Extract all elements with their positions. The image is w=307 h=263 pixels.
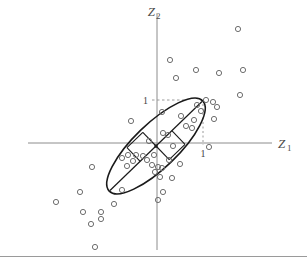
scatter-point (119, 155, 124, 160)
scatter-point (160, 130, 165, 135)
scatter-point (155, 197, 160, 202)
scatter-point (80, 209, 85, 214)
scatter-point (166, 157, 171, 162)
scatter-point (128, 118, 133, 123)
x-axis-tick-label-1: 1 (201, 148, 206, 159)
scatter-point (210, 99, 215, 104)
scatter-point (130, 158, 135, 163)
scatter-point (193, 67, 198, 72)
scatter-point (77, 189, 82, 194)
scatter-point (92, 244, 97, 249)
y-axis-label-sub: 2 (156, 11, 161, 21)
scatter-point (216, 70, 221, 75)
scatter-point (151, 152, 156, 157)
ellipse-right-angle-mark-lower-leg (172, 131, 185, 145)
scatter-point (169, 175, 174, 180)
scatter-point (125, 152, 130, 157)
scatter-point (167, 57, 172, 62)
scatter-point (98, 209, 103, 214)
scatter-point (157, 174, 162, 179)
scatter-point (211, 116, 216, 121)
x-axis-label: Z 1 (278, 136, 292, 153)
scatter-plot-figure: Z 2 Z 1 1 1 (0, 0, 307, 263)
scatter-points-group (53, 26, 245, 249)
scatter-point (98, 216, 103, 221)
scatter-point (88, 221, 93, 226)
scatter-point (173, 75, 178, 80)
scatter-point (214, 104, 219, 109)
y-axis-tick-label-1: 1 (143, 95, 148, 106)
scatter-point (189, 125, 194, 130)
scatter-point (119, 187, 124, 192)
scatter-point (111, 201, 116, 206)
ellipse-right-angle-mark-lower (169, 144, 185, 159)
scatter-point (203, 97, 208, 102)
plot-canvas: Z 2 Z 1 1 1 (0, 0, 307, 263)
y-axis-label-main: Z (148, 4, 156, 19)
scatter-point (124, 163, 129, 168)
scatter-point (149, 162, 154, 167)
scatter-point (240, 67, 245, 72)
scatter-point (206, 144, 211, 149)
scatter-point (170, 143, 175, 148)
scatter-point (183, 123, 188, 128)
x-axis-label-sub: 1 (287, 143, 292, 153)
scatter-point (235, 26, 240, 31)
scatter-point (177, 161, 182, 166)
x-axis-label-main: Z (278, 136, 286, 151)
scatter-point (160, 189, 165, 194)
scatter-point (89, 164, 94, 169)
axes-group (28, 14, 272, 250)
scatter-point (198, 108, 203, 113)
scatter-point (178, 113, 183, 118)
scatter-point (191, 117, 196, 122)
scatter-point (144, 157, 149, 162)
ellipse-right-angle-mark-upper (127, 132, 143, 147)
scatter-point (237, 92, 242, 97)
y-axis-label: Z 2 (148, 4, 161, 21)
scatter-point (53, 199, 58, 204)
